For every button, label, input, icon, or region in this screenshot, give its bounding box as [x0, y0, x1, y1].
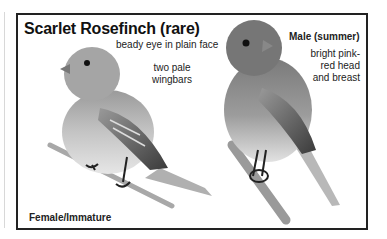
- female-note-wingbars-1: two pale: [153, 62, 190, 73]
- female-note-wingbars: two pale wingbars: [148, 62, 196, 86]
- male-note-1: bright pink-: [311, 48, 360, 59]
- female-note-wingbars-2: wingbars: [152, 74, 192, 85]
- male-label: Male (summer): [289, 31, 360, 43]
- male-note-2: red head: [321, 60, 360, 71]
- male-note-3: and breast: [313, 72, 360, 83]
- plate-title: Scarlet Rosefinch (rare): [24, 20, 200, 38]
- female-note-eye: beady eye in plain face: [116, 39, 218, 51]
- female-label: Female/Immature: [29, 212, 111, 224]
- male-note-color: bright pink- red head and breast: [296, 48, 360, 84]
